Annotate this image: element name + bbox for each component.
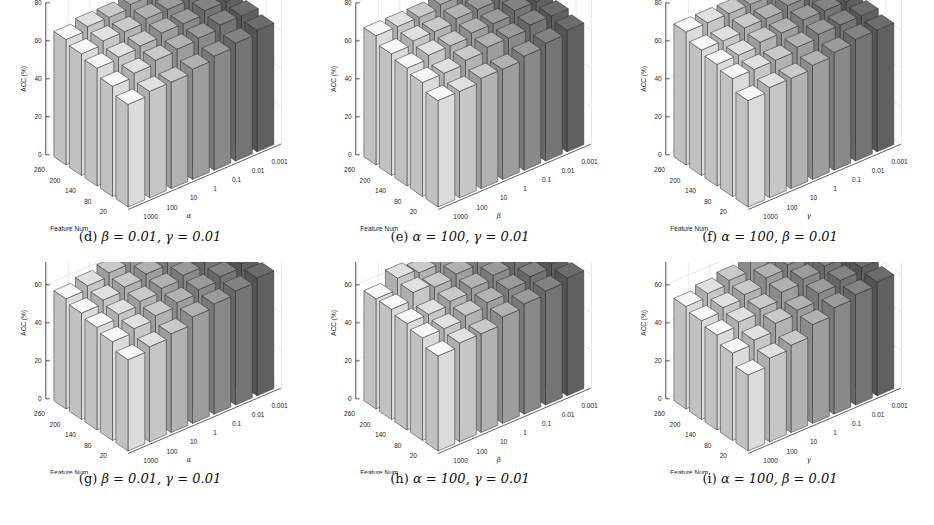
- caption-math: α = 100, β = 0.01: [721, 229, 838, 244]
- feature-tick-label: 140: [685, 187, 696, 194]
- z-axis-label: ACC (%): [20, 66, 28, 92]
- feature-tick-label: 200: [50, 177, 61, 184]
- z-tick-label: 40: [654, 319, 662, 326]
- z-tick-label: 20: [34, 357, 42, 364]
- feature-tick-label: 260: [34, 166, 45, 173]
- chart-caption: (h) α = 100, γ = 0.01: [310, 471, 610, 486]
- bar: [116, 344, 145, 451]
- z-tick-label: 0: [348, 151, 352, 158]
- param-tick-label: 0.01: [562, 167, 575, 174]
- feature-tick-label: 20: [720, 452, 728, 459]
- z-tick-label: 20: [654, 357, 662, 364]
- param-axis-label: β: [496, 456, 501, 464]
- feature-tick-label: 260: [344, 410, 355, 417]
- z-axis-label: ACC (%): [330, 66, 338, 92]
- param-tick-label: 10: [190, 438, 198, 445]
- feature-tick-label: 200: [360, 177, 371, 184]
- feature-tick-label: 200: [670, 177, 681, 184]
- z-tick-label: 40: [344, 319, 352, 326]
- param-tick-label: 10: [810, 438, 818, 445]
- param-tick-label: 0.1: [542, 420, 551, 427]
- caption-label: (i): [702, 471, 716, 486]
- param-axis-label: α: [186, 212, 191, 220]
- param-tick-label: 0.01: [252, 167, 265, 174]
- caption-math: α = 100, γ = 0.01: [413, 471, 530, 486]
- param-tick-label: 1: [833, 429, 837, 436]
- chart-panel-g: 020406080ACC (%)10001001010.10.010.00120…: [0, 262, 300, 517]
- param-tick-label: 1: [213, 429, 217, 436]
- feature-tick-label: 20: [100, 452, 108, 459]
- param-tick-label: 1000: [453, 213, 468, 220]
- param-tick-label: 1000: [763, 213, 778, 220]
- param-tick-label: 1000: [763, 457, 778, 464]
- param-tick-label: 0.001: [891, 402, 908, 409]
- param-tick-label: 0.001: [581, 402, 598, 409]
- feature-tick-label: 140: [65, 431, 76, 438]
- z-axis: 020406080ACC (%): [640, 0, 670, 158]
- z-axis: 020406080ACC (%): [20, 262, 50, 402]
- z-tick-label: 60: [654, 281, 662, 288]
- chart-panel-f: 020406080ACC (%)10001001010.10.010.00120…: [620, 0, 920, 255]
- z-axis-label: ACC (%): [640, 310, 648, 336]
- feature-tick-label: 200: [670, 421, 681, 428]
- z-axis: 020406080ACC (%): [330, 0, 360, 158]
- z-axis: 020406080ACC (%): [640, 262, 670, 402]
- caption-label: (g): [79, 471, 97, 486]
- feature-tick-label: 80: [394, 198, 402, 205]
- param-tick-label: 0.001: [581, 158, 598, 165]
- caption-math: β = 0.01, γ = 0.01: [101, 471, 221, 486]
- z-tick-label: 60: [34, 281, 42, 288]
- caption-label: (h): [390, 471, 409, 486]
- chart-caption: (d) β = 0.01, γ = 0.01: [0, 229, 300, 244]
- param-tick-label: 100: [787, 204, 798, 211]
- param-tick-label: 100: [167, 204, 178, 211]
- param-tick-label: 0.1: [542, 176, 551, 183]
- caption-math: α = 100, β = 0.01: [721, 471, 838, 486]
- feature-tick-label: 80: [704, 442, 712, 449]
- chart-caption: (i) α = 100, β = 0.01: [620, 471, 920, 486]
- z-tick-label: 0: [658, 395, 662, 402]
- param-tick-label: 1: [833, 185, 837, 192]
- z-tick-label: 80: [34, 0, 42, 6]
- param-axis-label: α: [186, 456, 191, 464]
- z-axis: 020406080ACC (%): [20, 0, 50, 158]
- feature-tick-label: 80: [84, 442, 92, 449]
- chart-panel-i: 020406080ACC (%)10001001010.10.010.00120…: [620, 262, 920, 517]
- chart-caption: (f) α = 100, β = 0.01: [620, 229, 920, 244]
- caption-label: (e): [391, 229, 409, 244]
- chart-panel-d: 020406080ACC (%)10001001010.10.010.00120…: [0, 0, 300, 255]
- bar: [426, 341, 455, 451]
- param-axis-label: γ: [807, 456, 812, 464]
- param-tick-label: 0.001: [891, 158, 908, 165]
- bar: [426, 85, 455, 207]
- feature-tick-label: 80: [84, 198, 92, 205]
- param-tick-label: 0.01: [872, 411, 885, 418]
- z-tick-label: 0: [38, 395, 42, 402]
- feature-tick-label: 80: [394, 442, 402, 449]
- param-tick-label: 0.1: [852, 176, 861, 183]
- z-tick-label: 40: [344, 75, 352, 82]
- param-tick-label: 10: [500, 194, 508, 201]
- feature-tick-label: 260: [34, 410, 45, 417]
- z-tick-label: 0: [38, 151, 42, 158]
- z-tick-label: 20: [344, 357, 352, 364]
- z-tick-label: 40: [34, 75, 42, 82]
- param-tick-label: 100: [167, 448, 178, 455]
- bar3d-plot: 020406080ACC (%)10001001010.10.010.00120…: [310, 262, 610, 474]
- param-tick-label: 1: [523, 429, 527, 436]
- param-axis-label: γ: [807, 212, 812, 220]
- param-tick-label: 1: [523, 185, 527, 192]
- param-tick-label: 100: [477, 448, 488, 455]
- z-tick-label: 60: [654, 37, 662, 44]
- param-tick-label: 10: [500, 438, 508, 445]
- feature-tick-label: 200: [360, 421, 371, 428]
- caption-math: α = 100, γ = 0.01: [413, 229, 530, 244]
- z-tick-label: 40: [34, 319, 42, 326]
- feature-tick-label: 20: [100, 208, 108, 215]
- bar3d-plot: 020406080ACC (%)10001001010.10.010.00120…: [310, 0, 610, 232]
- z-axis-label: ACC (%): [640, 66, 648, 92]
- feature-tick-label: 260: [654, 410, 665, 417]
- feature-tick-label: 80: [704, 198, 712, 205]
- param-tick-label: 10: [190, 194, 198, 201]
- z-tick-label: 0: [348, 395, 352, 402]
